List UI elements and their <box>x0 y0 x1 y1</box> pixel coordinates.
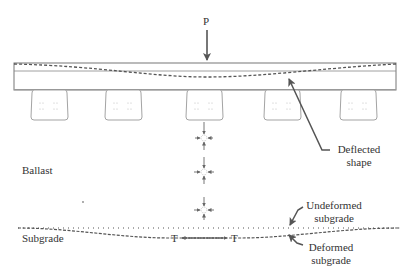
load-label: P <box>203 15 209 28</box>
stress-element-3 <box>194 197 214 220</box>
undeformed-label-line-1: Undeformed <box>303 199 365 212</box>
sleeper-2 <box>105 90 142 120</box>
track-deflection-diagram: P Deflected shape Ballast Undeformed sub… <box>0 0 410 275</box>
tension-label-right: T <box>231 232 238 245</box>
deformed-subgrade-leader <box>289 235 303 245</box>
stress-element-1 <box>195 122 213 150</box>
subgrade-label: Subgrade <box>22 232 64 245</box>
deformed-label-line-2: subgrade <box>303 254 359 267</box>
undeformed-subgrade-label: Undeformed subgrade <box>303 199 365 225</box>
deflected-shape-label: Deflected shape <box>331 143 387 169</box>
undeformed-label-line-2: subgrade <box>303 212 365 225</box>
deformed-subgrade-label: Deformed subgrade <box>303 241 359 267</box>
sleepers <box>31 90 377 120</box>
sleeper-3 <box>186 90 223 120</box>
deformed-subgrade-line <box>18 228 400 238</box>
tension-label-left: T <box>171 232 178 245</box>
deflected-label-line-2: shape <box>331 156 387 169</box>
deformed-label-line-1: Deformed <box>303 241 359 254</box>
ballast-label: Ballast <box>22 164 53 177</box>
sleeper-5 <box>340 90 377 120</box>
sleeper-1 <box>31 90 68 120</box>
deflected-label-line-1: Deflected <box>331 143 387 156</box>
undeformed-subgrade-leader <box>290 207 303 225</box>
stress-element-2 <box>194 157 214 184</box>
